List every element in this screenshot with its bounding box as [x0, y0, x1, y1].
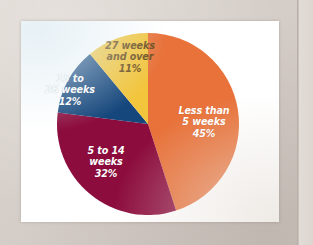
screenshot-root: Less than 5 weeks 45% 5 to 14 weeks 32% … [0, 0, 313, 245]
pie-chart-svg [21, 21, 279, 222]
chart-card: Less than 5 weeks 45% 5 to 14 weeks 32% … [21, 21, 279, 222]
page-gutter-line [297, 0, 299, 245]
pie-chart: Less than 5 weeks 45% 5 to 14 weeks 32% … [21, 21, 279, 222]
page-right-margin [299, 0, 313, 245]
